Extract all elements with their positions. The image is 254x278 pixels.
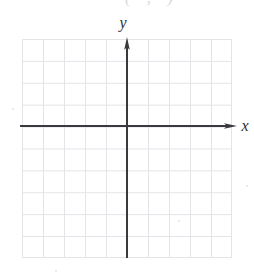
x-axis-label: x bbox=[238, 118, 252, 134]
scan-artifact-speck bbox=[55, 270, 57, 272]
scan-artifact-speck bbox=[178, 220, 180, 222]
y-axis-label: y bbox=[116, 15, 130, 31]
y-axis-line bbox=[126, 46, 128, 258]
arrow-right-icon bbox=[224, 120, 237, 132]
ordered-pair-annotation: ( , ) bbox=[112, 0, 192, 4]
scan-artifact-speck bbox=[246, 185, 248, 187]
grid-border-right bbox=[231, 39, 232, 258]
coordinate-grid-figure: ( , ) y x bbox=[0, 0, 254, 278]
arrow-up-icon bbox=[121, 37, 133, 50]
scan-artifact-speck bbox=[12, 108, 14, 110]
